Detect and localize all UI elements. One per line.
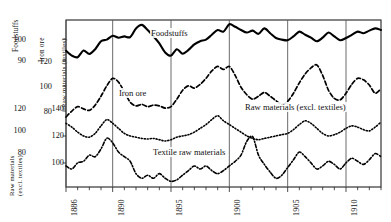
series-line-raw-materials-excl-textiles — [66, 116, 381, 141]
x-tick-1890: 1890 — [117, 199, 126, 216]
x-tick-1886: 1886 — [70, 199, 79, 216]
chart-figure: Foodstuffs Raw materials (excl. textiles… — [0, 0, 391, 222]
x-tick-1895: 1895 — [175, 199, 184, 216]
series-label-iron-ore: Iron ore — [118, 88, 147, 98]
x-tick-1910: 1910 — [350, 199, 359, 216]
x-tick-1900: 1900 — [233, 199, 242, 216]
series-label-raw-materials-excl-textiles: Raw materials (excl. textiles) — [244, 102, 347, 112]
x-tick-1905: 1905 — [292, 199, 301, 216]
series-line-textile-raw-materials — [66, 136, 381, 181]
series-label-foodstuffs: Foodstuffs — [150, 28, 189, 38]
series-line-foodstuffs — [66, 24, 381, 57]
series-label-textile-raw-materials: Textile raw materials — [152, 147, 226, 157]
